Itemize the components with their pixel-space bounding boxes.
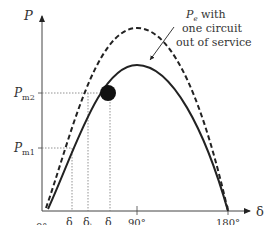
tick-label-delta-b: δb — [83, 216, 95, 225]
pm1-label: Pm1 — [13, 141, 35, 157]
x-axis-label: δ — [256, 204, 264, 219]
power-angle-diagram: P δ Pm2 Pm1 0° δa δb δc 90° 180° Pe with… — [0, 0, 278, 225]
annotation-line-2: one circuit — [182, 22, 242, 35]
annotation-line-3: out of service — [176, 36, 252, 49]
pe-curve-solid — [48, 65, 228, 211]
y-axis-label: P — [23, 8, 33, 23]
tick-label-delta-c: δc — [105, 216, 116, 225]
annotation-leader-arrow — [150, 27, 174, 60]
annotation-line-1: Pe with — [185, 8, 226, 23]
operating-point-dot — [100, 85, 116, 101]
tick-label-90: 90° — [128, 217, 146, 225]
tick-label-delta-a: δa — [66, 216, 77, 225]
tick-label-180: 180° — [216, 217, 240, 225]
tick-label-0: 0° — [36, 221, 47, 225]
pm2-label: Pm2 — [13, 86, 35, 102]
pe-curve-dashed — [46, 28, 228, 211]
